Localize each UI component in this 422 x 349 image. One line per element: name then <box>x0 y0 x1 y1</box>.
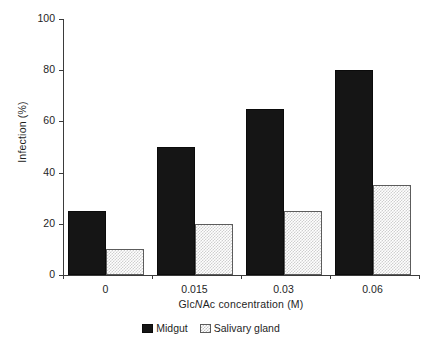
legend-item-midgut[interactable]: Midgut <box>142 322 188 334</box>
x-tick-0.06 <box>419 275 420 279</box>
x-tick-0.015 <box>241 275 242 279</box>
bar-midgut-0 <box>68 211 106 275</box>
x-tick-origin <box>63 275 64 279</box>
plot-area: 020406080100 00.0150.030.06 <box>63 19 419 275</box>
legend-swatch-icon-midgut <box>142 324 153 333</box>
bar-salivary-gland-0 <box>106 249 144 275</box>
y-tick-20: 20 <box>59 224 63 225</box>
y-tick-label-40: 40 <box>43 166 55 178</box>
bar-midgut-0.03 <box>246 109 284 275</box>
legend-label: Salivary gland <box>214 322 280 334</box>
y-tick-label-60: 60 <box>43 114 55 126</box>
chart-legend: MidgutSalivary gland <box>0 322 422 334</box>
bar-midgut-0.06 <box>335 70 373 275</box>
bar-midgut-0.015 <box>157 147 195 275</box>
x-tick-label-0.06: 0.06 <box>328 283 418 295</box>
x-axis-title-pre: Glc <box>178 298 194 310</box>
x-tick-label-0.015: 0.015 <box>150 283 240 295</box>
x-axis-title: GlcNAc concentration (M) <box>63 298 419 310</box>
y-tick-label-20: 20 <box>43 217 55 229</box>
y-axis-title: Infection (%) <box>16 72 28 192</box>
legend-item-salivary-gland[interactable]: Salivary gland <box>200 322 280 334</box>
y-tick-80: 80 <box>59 70 63 71</box>
y-tick-100: 100 <box>59 19 63 20</box>
bar-salivary-gland-0.06 <box>373 185 411 275</box>
y-tick-label-0: 0 <box>49 268 55 280</box>
x-axis-title-post: Ac concentration (M) <box>203 298 304 310</box>
x-tick-label-0.03: 0.03 <box>239 283 329 295</box>
y-tick-label-80: 80 <box>43 63 55 75</box>
bar-salivary-gland-0.015 <box>195 224 233 275</box>
x-tick-0 <box>152 275 153 279</box>
legend-label: Midgut <box>156 322 188 334</box>
y-tick-label-100: 100 <box>37 12 55 24</box>
y-tick-40: 40 <box>59 173 63 174</box>
bar-salivary-gland-0.03 <box>284 211 322 275</box>
y-axis-line <box>63 19 64 275</box>
legend-swatch-icon-salivary <box>200 324 211 333</box>
x-axis-title-italic: N <box>195 298 203 310</box>
bar-chart-figure: Infection (%) 020406080100 00.0150.030.0… <box>0 0 422 349</box>
x-tick-0.03 <box>330 275 331 279</box>
x-tick-label-0: 0 <box>61 283 151 295</box>
y-tick-60: 60 <box>59 121 63 122</box>
